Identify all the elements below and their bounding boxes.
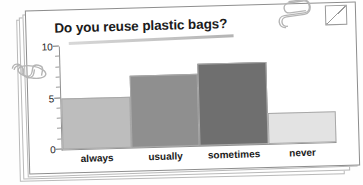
y-axis-minor-tick [56,87,60,88]
x-axis-label-always: always [63,152,132,165]
y-axis-major-tick [54,97,60,98]
bar-usually [129,74,199,148]
folded-corner-icon [325,5,348,26]
y-axis-minor-tick [57,128,61,129]
bar-sometimes [197,62,268,146]
bar-always [61,96,131,149]
bar-slot [197,41,268,146]
y-axis-minor-tick [55,56,59,57]
x-axis-label-never: never [268,146,337,159]
y-axis-tick-label: 5 [49,93,55,104]
chart-plot-area: 0510 [59,39,337,150]
x-axis-label-sometimes: sometimes [200,148,269,161]
bar-slot [60,45,131,150]
y-axis-tick-label: 10 [42,41,53,52]
y-axis-minor-tick [56,76,60,77]
y-axis-major-tick [56,149,62,150]
bar-slot [265,39,336,144]
survey-chart-card: Do you reuse plastic bags? 0510 alwaysus… [25,2,360,175]
bar-series [60,39,337,149]
chart-title: Do you reuse plastic bags? [54,16,227,36]
y-axis-tick-label: 0 [50,144,56,155]
y-axis-minor-tick [57,118,61,119]
screenshot-root: Do you reuse plastic bags? 0510 alwaysus… [0,0,363,185]
y-axis-major-tick [53,46,59,47]
y-axis-minor-tick [57,138,61,139]
x-axis-label-usually: usually [131,150,200,163]
y-axis-minor-tick [56,107,60,108]
bar-slot [128,43,199,148]
bar-never [267,111,336,144]
